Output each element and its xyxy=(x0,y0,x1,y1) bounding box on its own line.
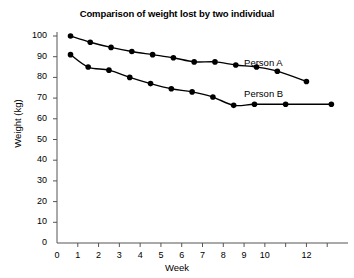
data-point-marker xyxy=(127,75,133,81)
plot-area xyxy=(0,0,354,278)
data-point-marker xyxy=(85,64,91,70)
y-tick-label: 50 xyxy=(23,134,47,144)
x-tick-label: 0 xyxy=(47,250,67,260)
data-point-marker xyxy=(233,62,239,68)
weight-loss-line-chart: Comparison of weight lost by two individ… xyxy=(0,0,354,278)
x-tick-label: 5 xyxy=(151,250,171,260)
data-point-marker xyxy=(304,79,310,85)
data-point-marker xyxy=(171,55,177,61)
series-group xyxy=(68,33,334,108)
series-label-person-b: Person B xyxy=(244,88,283,99)
data-point-marker xyxy=(129,49,135,55)
data-point-marker xyxy=(210,94,216,100)
y-tick-label: 70 xyxy=(23,92,47,102)
x-tick-label: 6 xyxy=(172,250,192,260)
data-point-marker xyxy=(169,86,175,92)
x-tick-label: 7 xyxy=(193,250,213,260)
x-tick-label: 1 xyxy=(68,250,88,260)
data-point-marker xyxy=(283,102,289,108)
data-point-marker xyxy=(329,102,335,108)
y-tick-label: 90 xyxy=(23,51,47,61)
data-point-marker xyxy=(212,59,218,65)
y-tick-label: 20 xyxy=(23,196,47,206)
y-tick-label: 0 xyxy=(23,237,47,247)
data-point-marker xyxy=(275,68,281,74)
data-point-marker xyxy=(150,52,156,58)
x-tick-label: 4 xyxy=(130,250,150,260)
data-point-marker xyxy=(191,59,197,65)
data-point-marker xyxy=(252,102,258,108)
data-point-marker xyxy=(189,89,195,95)
y-tick-label: 40 xyxy=(23,154,47,164)
x-tick-label: 12 xyxy=(296,250,316,260)
axes-group xyxy=(53,32,348,247)
data-point-marker xyxy=(87,39,93,45)
y-tick-label: 30 xyxy=(23,175,47,185)
data-point-marker xyxy=(68,52,74,58)
x-tick-label: 9 xyxy=(234,250,254,260)
data-point-marker xyxy=(106,67,112,73)
x-tick-label: 10 xyxy=(255,250,275,260)
y-tick-label: 60 xyxy=(23,113,47,123)
y-tick-label: 80 xyxy=(23,71,47,81)
data-point-marker xyxy=(148,81,154,87)
series-label-person-a: Person A xyxy=(244,57,283,68)
data-point-marker xyxy=(68,33,74,39)
x-tick-label: 2 xyxy=(89,250,109,260)
x-tick-label: 8 xyxy=(213,250,233,260)
x-tick-label: 3 xyxy=(109,250,129,260)
series-2 xyxy=(68,52,334,108)
data-point-marker xyxy=(231,103,237,109)
y-tick-label: 100 xyxy=(23,30,47,40)
data-point-marker xyxy=(108,45,114,51)
y-tick-label: 10 xyxy=(23,216,47,226)
